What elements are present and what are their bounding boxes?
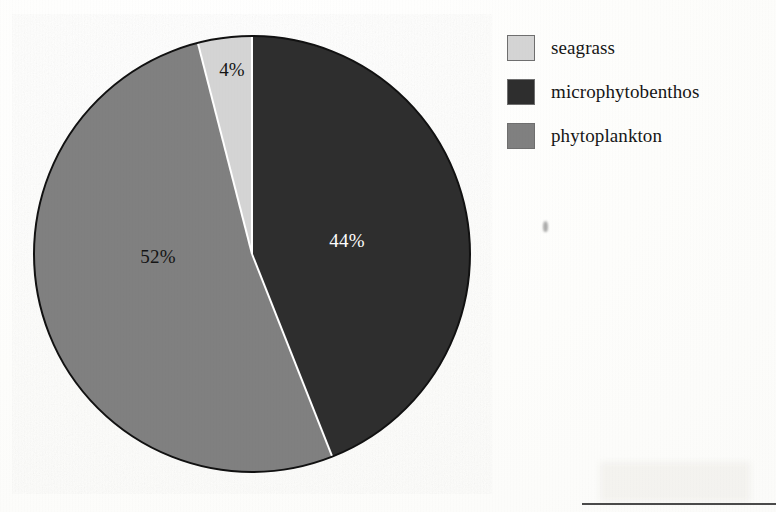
legend-item-phytoplankton[interactable]: phytoplankton bbox=[507, 114, 769, 158]
chart-legend: seagrass microphytobenthos phytoplankton bbox=[507, 26, 769, 158]
cropped-table-top-border bbox=[582, 503, 776, 505]
pie-label-seagrass: 4% bbox=[219, 59, 245, 80]
legend-label-microphytobenthos: microphytobenthos bbox=[551, 81, 699, 103]
pie-label-phytoplankton: 52% bbox=[140, 246, 175, 267]
legend-item-microphytobenthos[interactable]: microphytobenthos bbox=[507, 70, 769, 114]
legend-label-phytoplankton: phytoplankton bbox=[551, 125, 662, 147]
pie-chart: 44% 52% 4% bbox=[0, 0, 500, 512]
cropped-table-ghost bbox=[600, 462, 750, 502]
legend-swatch-microphytobenthos bbox=[507, 79, 535, 105]
legend-label-seagrass: seagrass bbox=[551, 37, 615, 59]
pie-chart-svg: 44% 52% 4% bbox=[0, 0, 500, 512]
scan-speck-artifact bbox=[543, 221, 548, 232]
legend-swatch-seagrass bbox=[507, 35, 535, 61]
legend-swatch-phytoplankton bbox=[507, 123, 535, 149]
pie-label-microphytobenthos: 44% bbox=[329, 230, 364, 251]
legend-item-seagrass[interactable]: seagrass bbox=[507, 26, 769, 70]
